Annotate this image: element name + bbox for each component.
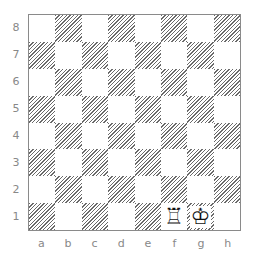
square-d2[interactable]	[108, 176, 134, 203]
square-e1[interactable]	[135, 203, 161, 230]
square-b5[interactable]	[55, 96, 81, 123]
rank-label: 8	[10, 21, 22, 34]
square-c3[interactable]	[82, 149, 108, 176]
square-h1[interactable]	[214, 203, 240, 230]
square-f1[interactable]: ♖	[161, 203, 187, 230]
rank-label: 3	[10, 156, 22, 169]
file-label: c	[89, 237, 101, 250]
square-g7[interactable]	[187, 42, 213, 69]
square-g8[interactable]	[187, 15, 213, 42]
file-label: g	[195, 237, 207, 250]
square-d4[interactable]	[108, 123, 134, 150]
square-f5[interactable]	[161, 96, 187, 123]
file-label: a	[35, 237, 47, 250]
square-c7[interactable]	[82, 42, 108, 69]
rank-label: 1	[10, 210, 22, 223]
square-c5[interactable]	[82, 96, 108, 123]
file-label: f	[168, 237, 180, 250]
square-e5[interactable]	[135, 96, 161, 123]
square-b8[interactable]	[55, 15, 81, 42]
rank-label: 5	[10, 102, 22, 115]
square-b1[interactable]	[55, 203, 81, 230]
square-f2[interactable]	[161, 176, 187, 203]
square-g3[interactable]	[187, 149, 213, 176]
chess-board: ♖♔	[28, 14, 241, 231]
rank-label: 2	[10, 183, 22, 196]
square-f7[interactable]	[161, 42, 187, 69]
square-d8[interactable]	[108, 15, 134, 42]
square-a4[interactable]	[29, 123, 55, 150]
square-e3[interactable]	[135, 149, 161, 176]
square-h4[interactable]	[214, 123, 240, 150]
square-b2[interactable]	[55, 176, 81, 203]
square-d5[interactable]	[108, 96, 134, 123]
file-label: b	[62, 237, 74, 250]
square-g1[interactable]: ♔	[187, 203, 213, 230]
square-a5[interactable]	[29, 96, 55, 123]
square-h2[interactable]	[214, 176, 240, 203]
square-a6[interactable]	[29, 69, 55, 96]
square-e6[interactable]	[135, 69, 161, 96]
square-c8[interactable]	[82, 15, 108, 42]
square-g6[interactable]	[187, 69, 213, 96]
square-a7[interactable]	[29, 42, 55, 69]
square-h5[interactable]	[214, 96, 240, 123]
file-label: h	[222, 237, 234, 250]
white-rook-icon[interactable]: ♖	[163, 206, 185, 228]
square-b4[interactable]	[55, 123, 81, 150]
square-d1[interactable]	[108, 203, 134, 230]
square-e8[interactable]	[135, 15, 161, 42]
square-e7[interactable]	[135, 42, 161, 69]
file-label: e	[142, 237, 154, 250]
square-d3[interactable]	[108, 149, 134, 176]
square-f3[interactable]	[161, 149, 187, 176]
square-g2[interactable]	[187, 176, 213, 203]
square-a8[interactable]	[29, 15, 55, 42]
square-c1[interactable]	[82, 203, 108, 230]
square-e2[interactable]	[135, 176, 161, 203]
square-a3[interactable]	[29, 149, 55, 176]
square-d7[interactable]	[108, 42, 134, 69]
square-a1[interactable]	[29, 203, 55, 230]
square-h3[interactable]	[214, 149, 240, 176]
square-c2[interactable]	[82, 176, 108, 203]
square-g4[interactable]	[187, 123, 213, 150]
square-f6[interactable]	[161, 69, 187, 96]
square-c4[interactable]	[82, 123, 108, 150]
square-h8[interactable]	[214, 15, 240, 42]
square-c6[interactable]	[82, 69, 108, 96]
white-king-icon[interactable]: ♔	[190, 206, 212, 228]
square-f4[interactable]	[161, 123, 187, 150]
rank-label: 6	[10, 75, 22, 88]
file-label: d	[115, 237, 127, 250]
square-a2[interactable]	[29, 176, 55, 203]
square-e4[interactable]	[135, 123, 161, 150]
rank-label: 7	[10, 48, 22, 61]
square-b6[interactable]	[55, 69, 81, 96]
square-d6[interactable]	[108, 69, 134, 96]
rank-label: 4	[10, 129, 22, 142]
square-h6[interactable]	[214, 69, 240, 96]
square-b3[interactable]	[55, 149, 81, 176]
square-b7[interactable]	[55, 42, 81, 69]
square-f8[interactable]	[161, 15, 187, 42]
square-g5[interactable]	[187, 96, 213, 123]
square-h7[interactable]	[214, 42, 240, 69]
